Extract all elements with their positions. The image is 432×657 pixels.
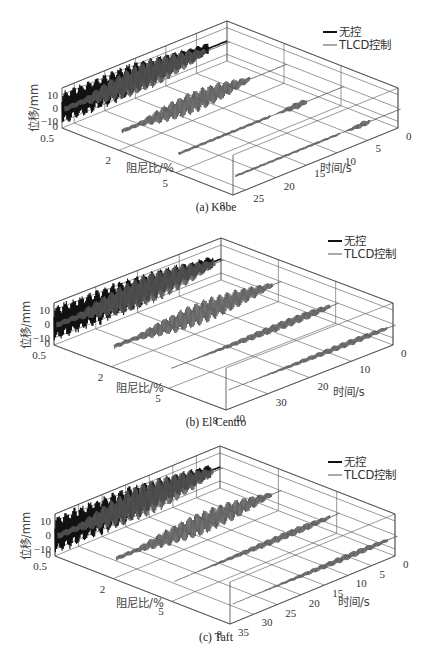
z-tick-label: 0 bbox=[45, 318, 51, 330]
z-tick-label: 0 bbox=[53, 120, 59, 132]
grid-line bbox=[196, 73, 367, 140]
z-tick-label: 0 bbox=[53, 102, 59, 114]
chart-panel-1: 100−1000.52580510152025位移/mm阻尼比/%时间/s无控T… bbox=[27, 21, 412, 214]
x-tick-label: 0.5 bbox=[32, 349, 46, 361]
box-edge bbox=[233, 128, 398, 195]
chart-panel-3: 100−1000.525805101520253035位移/mm阻尼比/%时间/… bbox=[19, 446, 409, 644]
box-edge bbox=[55, 556, 230, 624]
grid-line bbox=[227, 54, 398, 121]
legend-label: 无控 bbox=[344, 455, 367, 469]
y-tick-label: 0 bbox=[403, 558, 409, 570]
x-tick-label: 2 bbox=[98, 371, 104, 383]
z-tick-label: 10 bbox=[47, 89, 59, 101]
legend-label: TLCD控制 bbox=[343, 247, 396, 261]
legend-label: TLCD控制 bbox=[338, 38, 391, 52]
y-tick-label: 25 bbox=[253, 192, 265, 204]
z-axis-label: 位移/mm bbox=[19, 301, 33, 349]
z-tick-label: 0 bbox=[46, 548, 52, 560]
x-tick-label: 0.5 bbox=[33, 560, 47, 572]
panel-caption: (c) Taft bbox=[199, 631, 234, 644]
z-tick-label: 0 bbox=[46, 529, 52, 541]
chart-panel-2: 100−1000.5258010203040位移/mm阻尼比/%时间/s无控TL… bbox=[19, 234, 407, 429]
z-tick-label: 10 bbox=[39, 304, 51, 316]
x-axis-label: 阻尼比/% bbox=[116, 596, 164, 610]
box-edge bbox=[230, 556, 395, 624]
y-tick-label: 20 bbox=[309, 597, 321, 609]
y-tick-label: 20 bbox=[318, 380, 330, 392]
legend-label: TLCD控制 bbox=[343, 468, 396, 482]
x-tick-label: 2 bbox=[106, 154, 112, 166]
z-axis-label: 位移/mm bbox=[27, 84, 41, 132]
grid-line bbox=[172, 533, 337, 601]
x-axis-label: 阻尼比/% bbox=[126, 161, 174, 175]
y-tick-label: 10 bbox=[359, 363, 371, 375]
grid-line bbox=[135, 98, 306, 165]
legend-label: 无控 bbox=[339, 25, 362, 39]
legend: 无控TLCD控制 bbox=[328, 234, 396, 261]
y-axis-label: 时间/s bbox=[338, 595, 370, 609]
grid-line bbox=[176, 106, 341, 173]
grid-line bbox=[220, 481, 395, 549]
y-tick-label: 30 bbox=[262, 616, 274, 628]
z-tick-label: 10 bbox=[40, 515, 52, 527]
y-tick-label: 10 bbox=[356, 577, 368, 589]
grid-line bbox=[220, 453, 395, 521]
legend: 无控TLCD控制 bbox=[328, 455, 396, 482]
panel-caption: (a) Kobe bbox=[196, 201, 237, 214]
z-axis-label: 位移/mm bbox=[19, 512, 33, 560]
y-tick-label: 0 bbox=[406, 130, 412, 142]
grid-line bbox=[79, 546, 254, 614]
x-tick-label: 2 bbox=[100, 583, 106, 595]
box-edge bbox=[54, 345, 226, 410]
grid-line bbox=[221, 273, 393, 338]
legend: 无控TLCD控制 bbox=[323, 25, 391, 52]
y-tick-label: 25 bbox=[285, 607, 297, 619]
z-tick-label: 0 bbox=[45, 337, 51, 349]
grid-line bbox=[166, 86, 337, 153]
box-edge bbox=[226, 345, 393, 410]
x-tick-label: 0.5 bbox=[40, 132, 54, 144]
y-tick-label: 5 bbox=[379, 568, 385, 580]
legend-label: 无控 bbox=[344, 234, 367, 248]
y-tick-label: 30 bbox=[276, 396, 288, 408]
grid-line bbox=[227, 61, 398, 128]
y-axis-label: 时间/s bbox=[333, 385, 365, 399]
y-tick-label: 0 bbox=[401, 347, 407, 359]
x-axis-label: 阻尼比/% bbox=[116, 381, 164, 395]
grid-line bbox=[74, 123, 245, 190]
y-axis-label: 时间/s bbox=[320, 161, 352, 175]
y-tick-label: 35 bbox=[238, 626, 250, 638]
x-tick-label: 5 bbox=[163, 177, 169, 189]
panel-caption: (b) El Centro bbox=[186, 416, 247, 429]
y-tick-label: 5 bbox=[375, 142, 381, 154]
y-tick-label: 20 bbox=[284, 180, 296, 192]
figure-canvas: 100−1000.52580510152025位移/mm阻尼比/%时间/s无控T… bbox=[0, 0, 432, 657]
